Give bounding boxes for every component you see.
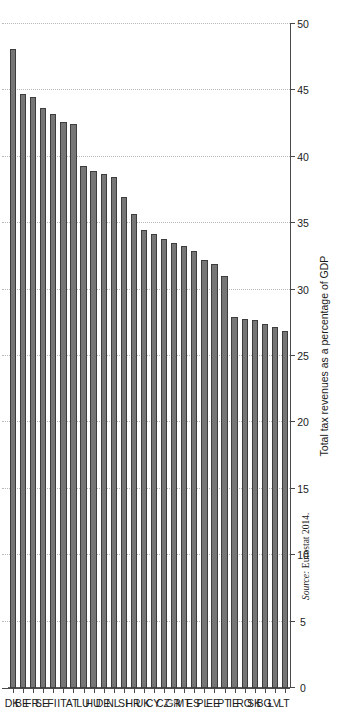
- bar-fr: [30, 97, 36, 688]
- bar-row: [141, 24, 147, 688]
- category-tick-ee: [214, 689, 215, 693]
- bar-ie: [231, 318, 237, 689]
- category-tick-dk: [13, 689, 14, 693]
- category-tick-ie: [235, 689, 236, 693]
- bar-se: [40, 108, 46, 688]
- bar-hr: [131, 214, 137, 688]
- bar-de: [101, 174, 107, 688]
- bar-lu: [80, 166, 86, 688]
- category-tick-si: [124, 689, 125, 693]
- bar-fi: [50, 114, 56, 688]
- source-note: Source: Eurostat 2014.: [300, 513, 311, 600]
- bar-row: [252, 24, 258, 688]
- bar-it: [60, 122, 66, 688]
- bar-be: [20, 94, 26, 688]
- category-tick-bg: [265, 689, 266, 693]
- bar-row: [161, 24, 167, 688]
- bar-sk: [252, 320, 258, 688]
- source-label: Source:: [301, 571, 311, 600]
- value-tick-label-45: 45: [283, 84, 323, 96]
- bar-row: [191, 24, 197, 688]
- value-tick-label-15: 15: [283, 483, 323, 495]
- category-tick-be: [23, 689, 24, 693]
- bar-mt: [181, 246, 187, 688]
- bar-bg: [262, 324, 268, 688]
- bar-row: [181, 24, 187, 688]
- source-block: Source: Eurostat 2014.: [300, 600, 340, 714]
- rotated-figure-container: 05101520253035404550 DKBEFRSEFIITATLUHUD…: [0, 0, 341, 714]
- category-tick-gr: [174, 689, 175, 693]
- bar-lt: [282, 331, 288, 688]
- category-tick-lv: [275, 689, 276, 693]
- bar-row: [242, 24, 248, 688]
- category-tick-hu: [94, 689, 95, 693]
- value-tick-label-25: 25: [283, 350, 323, 362]
- bar-row: [201, 24, 207, 688]
- bar-pt: [221, 276, 227, 688]
- bar-row: [90, 24, 96, 688]
- bar-at: [70, 124, 76, 688]
- bar-ro: [242, 319, 248, 688]
- bar-row: [272, 24, 278, 688]
- value-tick-label-50: 50: [283, 18, 323, 30]
- bar-row: [151, 24, 157, 688]
- bar-pl: [201, 260, 207, 688]
- category-tick-hr: [134, 689, 135, 693]
- bar-row: [121, 24, 127, 688]
- bar-row: [221, 24, 227, 688]
- value-axis: 05101520253035404550: [290, 24, 291, 688]
- bar-row: [70, 24, 76, 688]
- category-tick-lt: [285, 689, 286, 693]
- bar-row: [40, 24, 46, 688]
- bar-row: [20, 24, 26, 688]
- category-tick-cz: [164, 689, 165, 693]
- category-tick-es: [194, 689, 195, 693]
- category-tick-lu: [84, 689, 85, 693]
- value-tick-label-20: 20: [283, 416, 323, 428]
- category-tick-ro: [245, 689, 246, 693]
- bar-row: [211, 24, 217, 688]
- bar-row: [171, 24, 177, 688]
- bar-row: [131, 24, 137, 688]
- bar-gr: [171, 243, 177, 688]
- bar-chart-figure: 05101520253035404550 DKBEFRSEFIITATLUHUD…: [0, 0, 341, 714]
- bar-uk: [141, 230, 147, 688]
- bar-cz: [161, 239, 167, 688]
- category-tick-it: [63, 689, 64, 693]
- bar-row: [50, 24, 56, 688]
- bar-row: [101, 24, 107, 688]
- value-axis-title: Total tax revenues as a percentage of GD…: [318, 24, 330, 688]
- bar-row: [30, 24, 36, 688]
- category-tick-pt: [225, 689, 226, 693]
- category-tick-uk: [144, 689, 145, 693]
- bar-row: [10, 24, 16, 688]
- bar-row: [60, 24, 66, 688]
- source-text: Eurostat 2014.: [301, 513, 311, 568]
- bar-dk: [10, 49, 16, 688]
- bar-series: [8, 24, 290, 688]
- category-tick-fr: [33, 689, 34, 693]
- category-tick-mt: [184, 689, 185, 693]
- page-number: 103: [0, 698, 341, 706]
- plot-area: [8, 24, 290, 688]
- bar-cy: [151, 234, 157, 688]
- category-tick-nl: [114, 689, 115, 693]
- bar-si: [121, 197, 127, 688]
- value-tick-label-30: 30: [283, 284, 323, 296]
- bar-row: [231, 24, 237, 688]
- bar-es: [191, 251, 197, 688]
- bar-row: [80, 24, 86, 688]
- category-tick-cy: [154, 689, 155, 693]
- value-tick-label-40: 40: [283, 151, 323, 163]
- category-tick-de: [104, 689, 105, 693]
- category-tick-pl: [204, 689, 205, 693]
- bar-row: [262, 24, 268, 688]
- bar-nl: [111, 177, 117, 688]
- bar-row: [111, 24, 117, 688]
- category-tick-at: [73, 689, 74, 693]
- bar-ee: [211, 264, 217, 688]
- value-tick-label-35: 35: [283, 217, 323, 229]
- category-axis: DKBEFRSEFIITATLUHUDENLSIHRUKCYCZGRMTESPL…: [2, 688, 290, 689]
- category-tick-sk: [255, 689, 256, 693]
- bar-lv: [272, 327, 278, 688]
